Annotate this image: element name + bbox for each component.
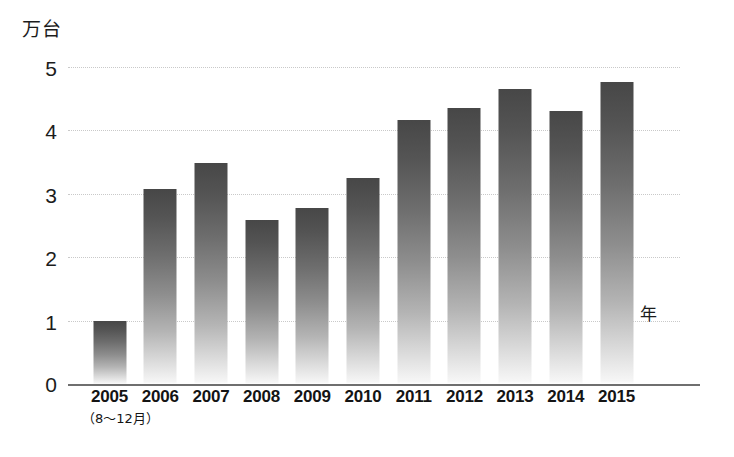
x-tick-label-group: 2007 — [183, 388, 238, 405]
y-tick-label: 2 — [45, 248, 57, 269]
x-tick-label: 2011 — [386, 388, 441, 405]
bar[interactable] — [499, 89, 532, 384]
bar-slot — [538, 67, 593, 384]
y-tick-label: 1 — [45, 311, 57, 332]
bar-slot — [386, 67, 441, 384]
x-tick-label: 2013 — [488, 388, 543, 405]
y-tick-label: 4 — [45, 121, 57, 142]
y-tick-label: 3 — [45, 184, 57, 205]
bar[interactable] — [600, 82, 633, 384]
x-tick-label: 2009 — [285, 388, 340, 405]
x-tick-label-group: 2010 — [336, 388, 391, 405]
bar[interactable] — [397, 120, 430, 384]
x-tick-label: 2008 — [234, 388, 289, 405]
bar[interactable] — [194, 163, 227, 384]
x-axis-tick-labels: 2005（8〜12月）20062007200820092010201120122… — [68, 388, 700, 448]
x-tick-label-group: 2014 — [538, 388, 593, 405]
x-tick-sublabel: （8〜12月） — [82, 412, 137, 425]
bar-slot — [336, 67, 391, 384]
x-tick-label: 2007 — [183, 388, 238, 405]
bar-slot — [589, 67, 644, 384]
bar-slot — [82, 67, 137, 384]
x-tick-label-group: 2008 — [234, 388, 289, 405]
x-tick-label-group: 2005（8〜12月） — [82, 388, 137, 425]
y-axis-unit-label: 万台 — [22, 20, 61, 39]
x-axis-unit-label: 年 — [640, 306, 657, 323]
bar-slot — [285, 67, 340, 384]
bar[interactable] — [347, 178, 380, 384]
bar[interactable] — [144, 189, 177, 384]
x-tick-label: 2006 — [133, 388, 188, 405]
bar-slot — [234, 67, 289, 384]
x-tick-label: 2005 — [82, 388, 137, 405]
bar[interactable] — [448, 108, 481, 384]
x-tick-label: 2014 — [538, 388, 593, 405]
bar[interactable] — [296, 208, 329, 384]
x-axis-line — [68, 384, 700, 386]
bar-slot — [488, 67, 543, 384]
x-tick-label: 2012 — [437, 388, 492, 405]
bar[interactable] — [93, 321, 126, 384]
x-tick-label-group: 2011 — [386, 388, 441, 405]
x-tick-label: 2010 — [336, 388, 391, 405]
bar-slot — [183, 67, 238, 384]
bar-chart: 万台 012345 年 2005（8〜12月）20062007200820092… — [0, 0, 734, 457]
x-tick-label-group: 2013 — [488, 388, 543, 405]
bar[interactable] — [549, 111, 582, 384]
plot-area: 012345 — [68, 67, 700, 384]
x-tick-label-group: 2012 — [437, 388, 492, 405]
bar-group — [68, 67, 700, 384]
bar-slot — [133, 67, 188, 384]
y-tick-label: 0 — [45, 374, 57, 395]
bar[interactable] — [245, 220, 278, 384]
x-tick-label-group: 2006 — [133, 388, 188, 405]
y-tick-label: 5 — [45, 58, 57, 79]
x-tick-label-group: 2009 — [285, 388, 340, 405]
x-tick-label: 2015 — [589, 388, 644, 405]
x-tick-label-group: 2015 — [589, 388, 644, 405]
bar-slot — [437, 67, 492, 384]
